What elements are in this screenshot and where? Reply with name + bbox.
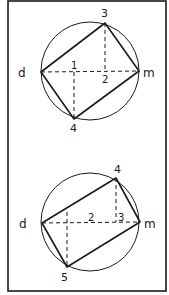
bottom-label-5: 5 — [61, 271, 68, 284]
bottom-label-d: d — [19, 217, 27, 231]
top-label-3: 3 — [101, 7, 108, 20]
top-diameter-dashed — [41, 71, 139, 72]
bottom-label-m: m — [144, 217, 156, 231]
diagram-canvas: d m 3 4 1 2 d m 4 5 2 3 — [0, 0, 169, 295]
top-label-4: 4 — [70, 122, 77, 135]
bottom-label-3: 3 — [118, 212, 124, 223]
bottom-label-2: 2 — [88, 212, 94, 223]
bottom-diagram: d m 4 5 2 3 — [19, 163, 156, 284]
top-diagram: d m 3 4 1 2 — [18, 7, 155, 135]
outer-frame — [8, 1, 166, 291]
top-label-d: d — [18, 66, 26, 80]
bottom-label-4: 4 — [114, 163, 121, 176]
top-label-2: 2 — [102, 74, 108, 85]
top-label-1: 1 — [71, 60, 77, 71]
top-label-m: m — [143, 66, 155, 80]
